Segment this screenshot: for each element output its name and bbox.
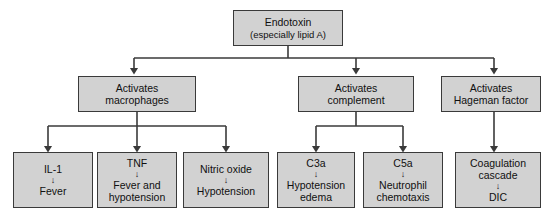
flowchart-canvas: Endotoxin (especially lipid A) Activates… (0, 0, 555, 216)
node-nitric-oxide: Nitric oxide ↓ Hypotension (183, 152, 269, 208)
node-coagulation-cascade-effect1: DIC (489, 191, 507, 203)
node-activates-complement-line1: Activates (335, 82, 378, 94)
node-tnf: TNF ↓ Fever and hypotension (97, 152, 177, 208)
node-il-1-effect1: Fever (40, 185, 67, 197)
node-activates-macrophages-line2: macrophages (105, 94, 169, 106)
node-nitric-oxide-head: Nitric oxide (200, 163, 252, 175)
node-il-1-head: IL-1 (44, 163, 62, 175)
node-nitric-oxide-effect1: Hypotension (197, 185, 255, 197)
down-arrow-icon: ↓ (314, 170, 319, 179)
node-c5a-effect1: Neutrophil (379, 179, 427, 191)
down-arrow-icon: ↓ (496, 182, 501, 191)
node-activates-complement: Activates complement (298, 76, 414, 112)
node-c5a-head: C5a (393, 157, 412, 169)
down-arrow-icon: ↓ (401, 170, 406, 179)
node-coagulation-cascade: Coagulation cascade ↓ DIC (455, 152, 541, 208)
node-c3a-head: C3a (306, 157, 325, 169)
node-coagulation-cascade-head2: cascade (478, 169, 517, 181)
node-c5a-effect2: chemotaxis (376, 191, 429, 203)
node-tnf-effect2: hypotension (109, 191, 166, 203)
node-coagulation-cascade-head: Coagulation (470, 157, 526, 169)
node-activates-complement-line2: complement (327, 94, 384, 106)
node-endotoxin-line2: (especially lipid A) (250, 29, 326, 40)
node-il-1: IL-1 ↓ Fever (13, 152, 93, 208)
node-c3a-effect2: edema (300, 191, 332, 203)
node-endotoxin-line1: Endotoxin (265, 16, 312, 28)
down-arrow-icon: ↓ (51, 176, 56, 185)
node-activates-hageman-factor-line2: Hageman factor (454, 94, 529, 106)
node-tnf-head: TNF (127, 157, 147, 169)
node-activates-hageman-factor: Activates Hageman factor (441, 76, 541, 112)
node-activates-macrophages-line1: Activates (116, 82, 159, 94)
node-c3a-effect1: Hypotension (287, 179, 345, 191)
node-c3a: C3a ↓ Hypotension edema (277, 152, 355, 208)
down-arrow-icon: ↓ (224, 176, 229, 185)
node-endotoxin: Endotoxin (especially lipid A) (233, 10, 343, 46)
node-c5a: C5a ↓ Neutrophil chemotaxis (363, 152, 443, 208)
node-tnf-effect1: Fever and (113, 179, 160, 191)
down-arrow-icon: ↓ (135, 170, 140, 179)
node-activates-hageman-factor-line1: Activates (470, 82, 513, 94)
node-activates-macrophages: Activates macrophages (78, 76, 196, 112)
